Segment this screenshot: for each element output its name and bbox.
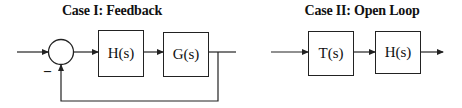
summing-junction	[49, 40, 74, 65]
negative-sign: –	[44, 63, 51, 79]
block-h-openloop: H(s)	[375, 31, 421, 74]
openloop-title: Case II: Open Loop	[304, 3, 419, 19]
feedback-title: Case I: Feedback	[62, 3, 162, 19]
block-label: H(s)	[385, 44, 412, 61]
block-g-feedback: G(s)	[163, 32, 209, 77]
block-label: G(s)	[173, 46, 200, 63]
block-label: H(s)	[108, 45, 135, 62]
block-h-feedback: H(s)	[98, 30, 144, 77]
block-label: T(s)	[319, 45, 344, 62]
block-t-openloop: T(s)	[308, 31, 354, 76]
